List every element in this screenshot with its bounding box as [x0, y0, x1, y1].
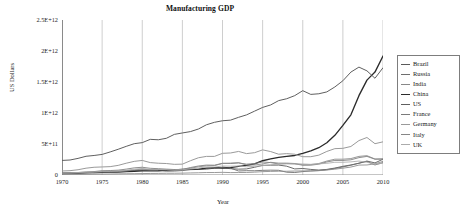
legend-item-france[interactable]: France [400, 109, 456, 119]
chart-legend: BrazilRussiaIndiaChinaUSFranceGermanyIta… [397, 55, 460, 154]
legend-swatch-icon [401, 114, 410, 115]
legend-item-us[interactable]: US [400, 99, 456, 109]
legend-label: France [413, 111, 430, 117]
legend-swatch-icon [401, 134, 410, 135]
x-tick-label: 2005 [323, 178, 363, 185]
y-axis-tick-labels: 05E+111E+121.5E+122E+122.5E+12 [0, 0, 58, 219]
y-tick-label: 2E+12 [6, 47, 58, 54]
legend-item-germany[interactable]: Germany [400, 120, 456, 130]
legend-item-italy[interactable]: Italy [400, 130, 456, 140]
y-tick-label: 1.5E+12 [6, 78, 58, 85]
legend-swatch-icon [401, 74, 410, 75]
legend-label: Italy [413, 132, 425, 138]
legend-label: China [413, 91, 428, 97]
legend-item-brazil[interactable]: Brazil [400, 59, 456, 69]
x-tick-label: 1990 [203, 178, 243, 185]
plot-svg [62, 20, 383, 175]
legend-label: US [413, 101, 421, 107]
chart-title: Manufacturing GDP [0, 4, 400, 13]
y-tick-label: 1E+12 [6, 109, 58, 116]
legend-label: Brazil [413, 61, 429, 67]
legend-swatch-icon [401, 144, 410, 145]
legend-label: UK [413, 142, 422, 148]
legend-label: India [413, 81, 426, 87]
chart-figure: Manufacturing GDP US Dollars 05E+111E+12… [0, 0, 469, 219]
y-tick-label: 0 [6, 171, 58, 178]
legend-item-russia[interactable]: Russia [400, 69, 456, 79]
x-tick-label: 1975 [82, 178, 122, 185]
legend-swatch-icon [401, 84, 410, 85]
legend-item-china[interactable]: China [400, 89, 456, 99]
legend-swatch-icon [401, 104, 410, 105]
x-tick-label: 1970 [42, 178, 82, 185]
x-tick-label: 1980 [122, 178, 162, 185]
legend-label: Russia [413, 71, 430, 77]
y-tick-label: 2.5E+12 [6, 16, 58, 23]
y-tick-label: 5E+11 [6, 140, 58, 147]
legend-swatch-icon [401, 94, 410, 95]
legend-item-india[interactable]: India [400, 79, 456, 89]
legend-swatch-icon [401, 124, 410, 125]
legend-item-uk[interactable]: UK [400, 140, 456, 150]
x-tick-label: 2000 [283, 178, 323, 185]
x-tick-label: 1995 [243, 178, 283, 185]
plot-area [62, 20, 383, 175]
x-tick-label: 2010 [363, 178, 403, 185]
legend-swatch-icon [401, 64, 410, 65]
x-tick-label: 1985 [162, 178, 202, 185]
x-axis-title: Year [62, 198, 384, 205]
legend-label: Germany [413, 121, 437, 127]
